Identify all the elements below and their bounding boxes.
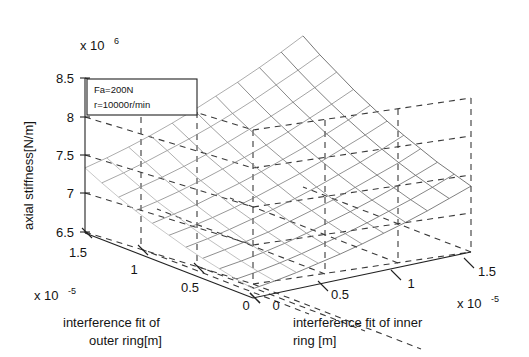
y-exponent-prefix: x 10 (457, 296, 482, 311)
x-axis-exponent: x 10 -5 (34, 286, 76, 303)
x-tick-label-1: 1 (130, 262, 137, 277)
annotation-line-2: r=10000r/min (94, 99, 150, 110)
x-tick-label-0: 1.5 (69, 245, 87, 260)
y-tick-label-1: 0.5 (331, 287, 349, 302)
y-exponent-power: -5 (491, 294, 499, 304)
y-tick-label-3: 1.5 (478, 264, 496, 279)
z-exponent-prefix: x 10 (80, 38, 105, 53)
y-axis-exponent: x 10 -5 (457, 294, 499, 311)
y-tick-label-2: 1 (407, 276, 414, 291)
annotation-line-1: Fa=200N (94, 84, 133, 95)
z-tick-label-0: 8.5 (56, 71, 74, 86)
y-axis-title-line1: interference fit of inner (293, 315, 423, 330)
z-exponent-power: 6 (114, 36, 119, 46)
z-axis-title: axial stiffness[N/m] (21, 121, 36, 230)
plot-canvas: 8.5 8 7.5 7 6.5 x 10 6 axial stiffness[N… (0, 0, 529, 357)
x-tick-label-2: 0.5 (181, 280, 199, 295)
z-axis-exponent: x 10 6 (80, 36, 119, 53)
x-axis-title-line2: outer ring[m] (89, 333, 162, 348)
surface-mesh (85, 36, 471, 289)
y-tick-label-0: 0 (272, 298, 279, 313)
x-exponent-power: -5 (68, 286, 76, 296)
z-tick-label-1: 8 (67, 110, 74, 125)
surface-plot-figure: 8.5 8 7.5 7 6.5 x 10 6 axial stiffness[N… (0, 0, 529, 357)
z-tick-label-3: 7 (67, 186, 74, 201)
x-axis-title-line1: interference fit of (63, 315, 160, 330)
x-exponent-prefix: x 10 (34, 288, 59, 303)
z-tick-label-4: 6.5 (56, 225, 74, 240)
z-tick-label-2: 7.5 (56, 148, 74, 163)
y-axis-title-line2: ring [m] (293, 333, 336, 348)
annotation-box: Fa=200N r=10000r/min (87, 79, 197, 115)
x-tick-label-3: 0 (242, 298, 249, 313)
